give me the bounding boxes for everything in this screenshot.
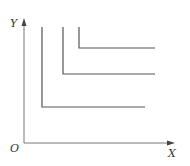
curve-3 — [79, 27, 155, 48]
x-axis-label: X — [167, 147, 177, 160]
y-axis-label: Y — [10, 17, 19, 30]
curve-1 — [42, 27, 145, 107]
origin-label: O — [10, 142, 19, 155]
x-axis-arrow-icon — [167, 141, 175, 146]
y-axis-arrow-icon — [22, 18, 27, 26]
curve-2 — [63, 27, 155, 74]
diagram-canvas: Y O X — [0, 0, 190, 166]
